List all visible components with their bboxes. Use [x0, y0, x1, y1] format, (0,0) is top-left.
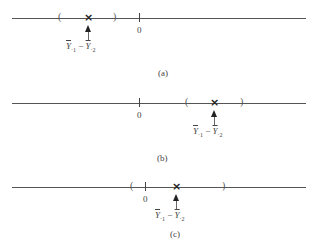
number-line — [12, 187, 306, 188]
panel-caption: (c) — [170, 229, 180, 239]
zero-label: 0 — [143, 194, 148, 204]
estimate-label: Y·1 − Y·2 — [155, 210, 185, 222]
zero-tick — [145, 182, 146, 191]
arrow-up-icon — [173, 194, 179, 201]
panel-c: ( 0 × ) Y·1 − Y·2 (c) — [0, 0, 320, 249]
arrow-shaft — [176, 201, 177, 209]
estimate-marker-icon: × — [172, 181, 181, 192]
ci-left-bound: ( — [130, 181, 133, 191]
ci-right-bound: ) — [222, 181, 225, 191]
